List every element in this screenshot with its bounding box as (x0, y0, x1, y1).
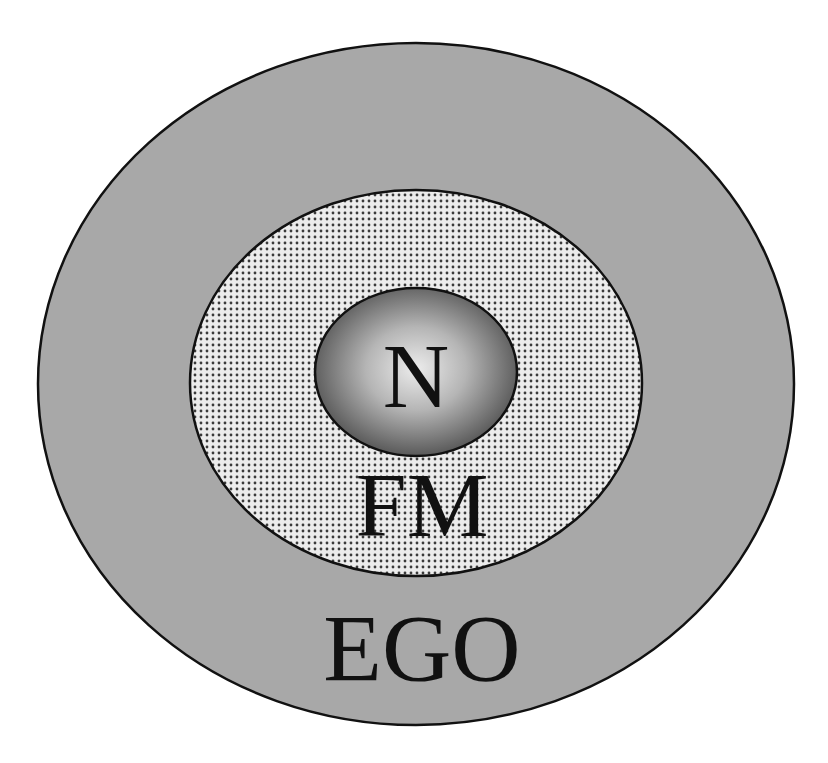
label-fm: FM (356, 454, 489, 556)
label-n: N (383, 325, 449, 427)
label-ego: EGO (323, 595, 520, 702)
nested-ellipse-diagram: N FM EGO (0, 0, 828, 763)
